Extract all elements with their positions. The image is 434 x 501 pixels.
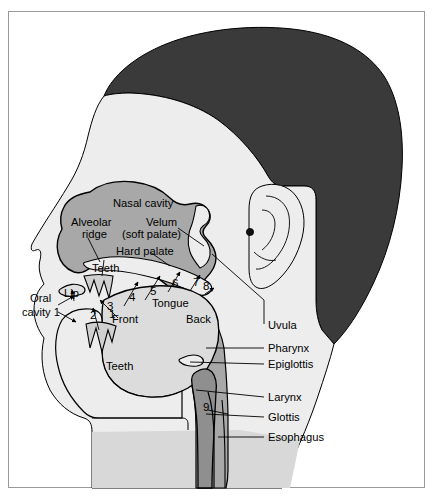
- label-lip: Lip: [64, 287, 79, 299]
- label-oral-cavity-line1: Oral: [30, 292, 51, 304]
- label-velum-line1: Velum: [146, 216, 177, 228]
- label-nasal-cavity: Nasal cavity: [113, 197, 174, 209]
- number-label-2: 2: [90, 309, 96, 321]
- label-epiglottis: Epiglottis: [268, 358, 314, 370]
- label-hard-palate: Hard palate: [116, 245, 174, 257]
- label-alveolar-ridge-line1: Alveolar: [71, 216, 112, 228]
- label-tongue: Tongue: [152, 297, 189, 309]
- label-glottis: Glottis: [268, 411, 300, 423]
- label-back: Back: [186, 313, 211, 325]
- number-label-6: 6: [172, 277, 178, 289]
- label-larynx: Larynx: [268, 391, 302, 403]
- number-label-4: 4: [129, 291, 136, 303]
- label-uvula: Uvula: [268, 319, 297, 331]
- figure-root: Nasal cavity Alveolar ridge Velum (soft …: [0, 0, 434, 501]
- label-teeth-upper: Teeth: [92, 262, 119, 274]
- number-label-9: 9: [203, 401, 209, 413]
- label-velum-line2: (soft palate): [122, 228, 181, 240]
- ear-canal-dot: [246, 228, 253, 235]
- label-front: Front: [112, 313, 139, 325]
- number-label-8: 8: [203, 280, 209, 292]
- label-alveolar-ridge-line2: ridge: [82, 228, 107, 240]
- label-pharynx: Pharynx: [268, 342, 309, 354]
- label-teeth-lower: Teeth: [106, 360, 133, 372]
- vocal-tract-diagram: Nasal cavity Alveolar ridge Velum (soft …: [0, 0, 434, 501]
- label-esophagus: Esophagus: [268, 431, 324, 443]
- number-label-5: 5: [150, 285, 156, 297]
- number-label-3: 3: [107, 300, 113, 312]
- label-oral-cavity-line2: cavity 1: [22, 306, 60, 318]
- number-label-7: 7: [193, 276, 199, 288]
